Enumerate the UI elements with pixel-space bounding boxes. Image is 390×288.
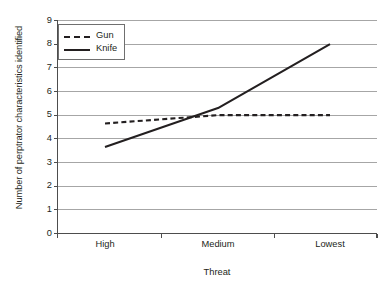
line-chart: Number of perptrator characteristics ide…	[0, 0, 390, 288]
series-line-gun	[105, 115, 330, 123]
x-tick-label-high: High	[95, 240, 114, 249]
x-axis-title: Threat	[57, 267, 377, 277]
legend-label-gun: Gun	[96, 31, 114, 40]
legend-item-gun: Gun	[64, 29, 117, 42]
legend-label-knife: Knife	[96, 44, 117, 53]
x-tick-label-medium: Medium	[201, 240, 234, 249]
x-tick-label-lowest: Lowest	[315, 240, 344, 249]
chart-legend: Gun Knife	[58, 24, 125, 60]
series-line-knife	[105, 44, 330, 147]
legend-swatch-dashed-icon	[64, 31, 90, 41]
legend-swatch-solid-icon	[64, 44, 90, 54]
legend-item-knife: Knife	[64, 42, 117, 55]
